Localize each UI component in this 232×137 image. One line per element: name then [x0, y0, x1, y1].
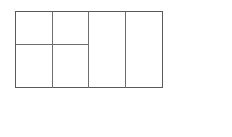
rectangle-partition-diagram	[15, 11, 163, 88]
rectangle-partition-svg	[15, 11, 163, 88]
answer-blank[interactable]: ( )	[84, 106, 222, 130]
figure-page: ( )	[0, 0, 232, 137]
